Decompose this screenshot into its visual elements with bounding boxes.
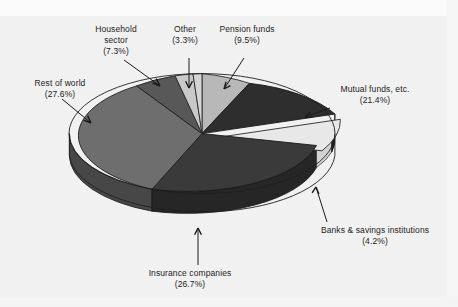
callout-other-name: Other [174, 24, 196, 34]
callout-mutual-pct: (21.4%) [322, 95, 428, 106]
callout-insurance-name: Insurance companies [149, 268, 232, 278]
callout-banks-name: Banks & savings institutions [321, 225, 429, 235]
callout-insurance-pct: (26.7%) [135, 279, 245, 290]
callout-label-pension-funds: Pension funds (9.5%) [208, 24, 286, 46]
callout-household-pct: (7.3%) [80, 46, 152, 57]
callout-pension-pct: (9.5%) [208, 35, 286, 46]
leader-rest-of-world [62, 99, 91, 123]
callout-label-insurance-companies: Insurance companies (26.7%) [135, 268, 245, 290]
callout-other-pct: (3.3%) [160, 35, 210, 46]
callout-label-household-sector: Household sector (7.3%) [80, 24, 152, 57]
callout-label-other: Other (3.3%) [160, 24, 210, 46]
callout-label-mutual-funds: Mutual funds, etc. (21.4%) [322, 84, 428, 106]
callout-pension-name: Pension funds [219, 24, 274, 34]
pie-chart-svg [0, 0, 458, 307]
callout-household-line2: sector [80, 35, 152, 46]
pie-chart: Household sector (7.3%) Other (3.3%) Pen… [0, 0, 458, 307]
callout-mutual-name: Mutual funds, etc. [341, 84, 410, 94]
chart-page: Household sector (7.3%) Other (3.3%) Pen… [0, 0, 458, 307]
callout-restworld-name: Rest of world [35, 78, 86, 88]
callout-label-banks-savings: Banks & savings institutions (4.2%) [300, 225, 450, 247]
callout-household-name: Household [95, 24, 137, 34]
leader-household-sector [124, 60, 160, 86]
callout-banks-pct: (4.2%) [300, 236, 450, 247]
callout-label-rest-of-world: Rest of world (27.6%) [16, 78, 104, 100]
callout-restworld-pct: (27.6%) [16, 89, 104, 100]
